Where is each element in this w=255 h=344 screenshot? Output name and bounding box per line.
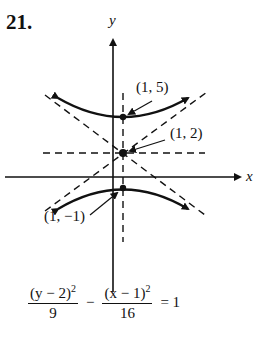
vertex-upper-dot <box>120 114 126 120</box>
minus-operator: − <box>86 294 94 311</box>
point-label-lower-vertex: (1, −1) <box>44 208 85 225</box>
point-label-upper-vertex: (1, 5) <box>136 79 169 96</box>
center-dot <box>119 149 127 157</box>
fraction-x-term: (x − 1)2 16 <box>102 283 152 322</box>
vertex-lower-dot <box>120 185 126 191</box>
pointer-upper <box>129 101 152 114</box>
point-label-center: (1, 2) <box>170 125 203 142</box>
equation-rhs: = 1 <box>160 294 180 311</box>
hyperbola-equation: (y − 2)2 9 − (x − 1)2 16 = 1 <box>24 283 184 322</box>
fraction-y-term: (y − 2)2 9 <box>28 283 78 322</box>
